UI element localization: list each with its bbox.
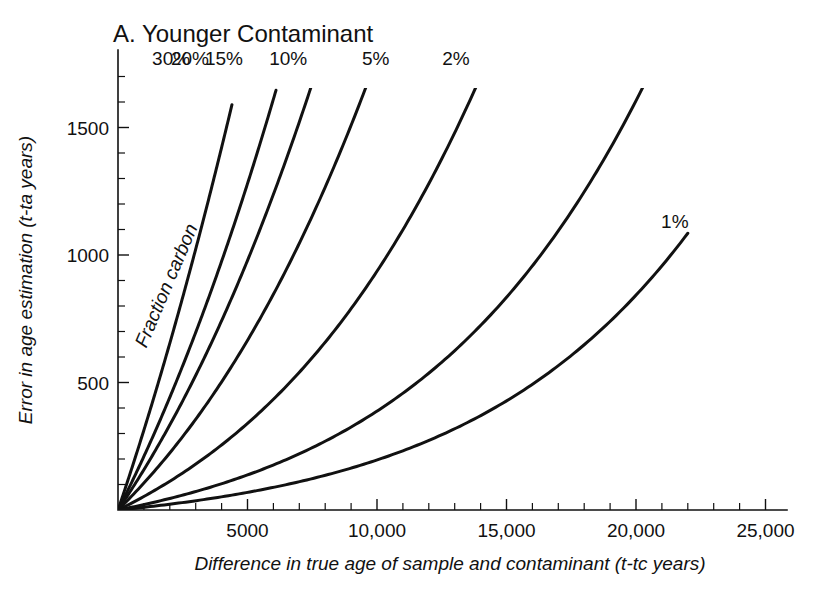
contamination-curve-5pct <box>118 48 569 510</box>
curve-label-1pct: 1% <box>661 211 689 232</box>
axes-group <box>118 50 787 510</box>
panel-title: A. Younger Contaminant <box>113 20 374 47</box>
curve-label-15pct: 15% <box>205 48 243 69</box>
y-tick-label: 1000 <box>67 245 109 266</box>
curve-label-5pct: 5% <box>362 48 390 69</box>
y-tick-label: 1500 <box>67 118 109 139</box>
y-tick-label: 500 <box>77 373 109 394</box>
x-tick-label: 10,000 <box>348 520 406 541</box>
fraction-carbon-annotation: Fraction carbon <box>131 221 202 351</box>
x-tick-label: 5000 <box>226 520 268 541</box>
x-axis-title: Difference in true age of sample and con… <box>194 553 705 574</box>
contamination-curve-15pct <box>118 48 359 510</box>
contamination-curve-2pct <box>118 80 646 510</box>
curves-group <box>118 48 688 510</box>
y-axis-title: Error in age estimation (t-ta years) <box>15 136 36 424</box>
chart-canvas: 500010,00015,00020,00025,000500100015003… <box>0 0 820 595</box>
contamination-curve-20pct <box>118 90 276 510</box>
axis-spines <box>118 50 787 510</box>
x-tick-label: 15,000 <box>477 520 535 541</box>
x-tick-label: 20,000 <box>607 520 665 541</box>
contamination-curve-1pct <box>118 233 688 510</box>
figure-container: 500010,00015,00020,00025,000500100015003… <box>0 0 820 595</box>
x-tick-label: 25,000 <box>736 520 794 541</box>
labels-group: 500010,00015,00020,00025,000500100015003… <box>67 48 795 541</box>
curve-label-10pct: 10% <box>269 48 307 69</box>
curve-label-2pct: 2% <box>442 48 470 69</box>
curve-label-20pct: 20% <box>171 48 209 69</box>
